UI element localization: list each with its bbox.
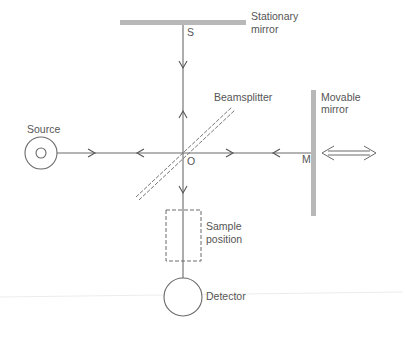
detector-label: Detector: [206, 290, 246, 302]
detector-circle: [164, 278, 202, 316]
stationary-mirror-label-1: Stationary: [251, 10, 299, 22]
double-arrow-icon: [322, 146, 376, 160]
movable-mirror: [311, 90, 316, 216]
point-o-label: O: [187, 155, 195, 167]
movable-mirror-label-2: mirror: [321, 103, 349, 115]
interferometer-diagram: Stationary mirror S Beamsplitter O Sourc…: [0, 0, 403, 338]
source-outer-circle: [25, 137, 57, 169]
sample-label-2: position: [206, 233, 242, 245]
sample-label-1: Sample: [206, 220, 242, 232]
point-s-label: S: [187, 26, 194, 38]
stationary-mirror: [120, 20, 246, 25]
stationary-mirror-label-2: mirror: [251, 23, 279, 35]
source-inner-circle: [36, 148, 46, 158]
movable-mirror-label-1: Movable: [321, 91, 361, 103]
beamsplitter-label: Beamsplitter: [214, 91, 273, 103]
source-label: Source: [27, 123, 60, 135]
point-m-label: M: [302, 153, 311, 165]
